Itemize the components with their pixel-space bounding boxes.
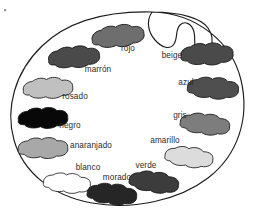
paint-label-anaranjado: anaranjado <box>70 141 112 150</box>
paint-label-azul: azul <box>178 78 194 87</box>
paint-label-rosado: rosado <box>62 92 88 101</box>
corner-speck-icon <box>4 9 6 11</box>
paint-label-verde: verde <box>136 161 157 170</box>
paint-label-rojo: rojo <box>121 44 135 53</box>
paint-label-morado: morado <box>103 173 132 182</box>
paint-label-blanco: blanco <box>76 163 101 172</box>
paint-label-marron: marrón <box>85 65 112 74</box>
paint-label-negro: negro <box>59 121 81 130</box>
paint-label-amarillo: amarillo <box>150 136 180 145</box>
paint-label-gris: gris <box>173 111 187 120</box>
paint-label-beige: beige <box>162 51 183 60</box>
paint-palette-figure: rojomarrónrosadonegroanaranjadoblancomor… <box>0 0 255 215</box>
palette-canvas: rojomarrónrosadonegroanaranjadoblancomor… <box>0 0 255 215</box>
